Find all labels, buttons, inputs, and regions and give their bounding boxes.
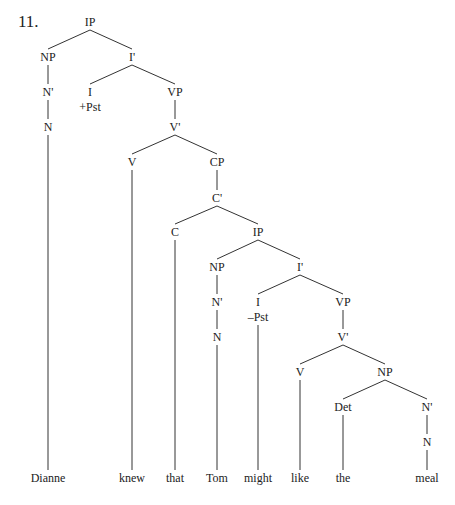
syntax-tree-branches xyxy=(0,0,455,505)
tree-node-c: C xyxy=(171,225,179,239)
tree-node-ip1: IP xyxy=(85,15,96,29)
terminal-word-might: might xyxy=(244,471,272,485)
tree-node-vp1: VP xyxy=(167,85,182,99)
branch-np3-nbar3 xyxy=(385,380,427,399)
terminal-word-meal: meal xyxy=(415,471,438,485)
branch-cbar-c xyxy=(175,206,217,224)
tree-node-vbar2: V' xyxy=(338,330,349,344)
tree-node-np3: NP xyxy=(377,365,392,379)
tree-node-ibar1: I' xyxy=(129,50,135,64)
terminal-word-knew: knew xyxy=(119,471,145,485)
terminal-word-like: like xyxy=(291,471,309,485)
terminal-word-dianne: Dianne xyxy=(31,471,66,485)
tree-node-cbar: C' xyxy=(212,191,222,205)
tree-node-np1: NP xyxy=(40,50,55,64)
branch-ibar1-i1 xyxy=(90,65,132,84)
branch-ip2-ibar2 xyxy=(258,240,300,259)
tree-node-cp: CP xyxy=(210,155,225,169)
tree-node-v1: V xyxy=(128,155,137,169)
branch-cbar-ip2 xyxy=(217,206,258,224)
tree-node-i1: I xyxy=(88,85,92,99)
tree-node-nbar1: N' xyxy=(43,85,54,99)
branch-vbar2-v2 xyxy=(300,345,343,364)
branch-ip1-ibar1 xyxy=(90,30,132,49)
tree-node-ibar2: I' xyxy=(297,260,303,274)
branch-vbar1-cp xyxy=(175,135,217,154)
branch-vbar2-np3 xyxy=(343,345,385,364)
branch-ibar2-vp2 xyxy=(300,275,343,294)
branch-ibar1-vp1 xyxy=(132,65,175,84)
terminal-word-that: that xyxy=(166,471,184,485)
tense-feature-i2: –Pst xyxy=(248,310,269,324)
tree-node-n1: N xyxy=(44,120,53,134)
branch-vbar1-v1 xyxy=(132,135,175,154)
branch-np3-det xyxy=(343,380,385,399)
branch-ip2-np2 xyxy=(217,240,258,259)
tense-feature-i1: +Pst xyxy=(79,100,100,114)
tree-node-np2: NP xyxy=(209,260,224,274)
tree-node-n3: N xyxy=(423,435,432,449)
tree-node-vp2: VP xyxy=(335,295,350,309)
tree-node-i2: I xyxy=(256,295,260,309)
tree-node-vbar1: V' xyxy=(170,120,181,134)
tree-node-nbar3: N' xyxy=(422,400,433,414)
branch-ibar2-i2 xyxy=(258,275,300,294)
tree-node-det: Det xyxy=(334,400,351,414)
tree-node-ip2: IP xyxy=(253,225,264,239)
terminal-word-the: the xyxy=(336,471,351,485)
tree-node-v2: V xyxy=(296,365,305,379)
branch-ip1-np1 xyxy=(48,30,90,49)
terminal-word-tom: Tom xyxy=(206,471,228,485)
tree-node-nbar2: N' xyxy=(212,295,223,309)
tree-node-n2: N xyxy=(213,330,222,344)
